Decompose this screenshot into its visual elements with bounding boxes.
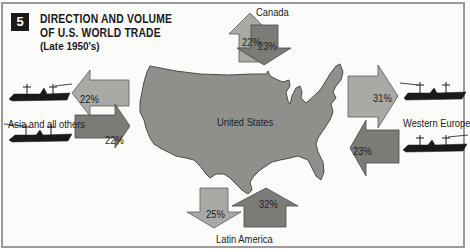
canada-label: Canada: [256, 6, 289, 18]
united-states-label: United States: [217, 116, 273, 128]
ship-icon-europe-top: [400, 82, 466, 100]
asia-label: Asia and all others: [8, 118, 85, 130]
europe-import-pct: 23%: [353, 145, 372, 157]
latin-america-export-pct: 25%: [206, 208, 225, 220]
asia-export-pct: 22%: [80, 93, 99, 105]
europe-export-pct: 31%: [373, 92, 392, 104]
canada-import-pct: 23%: [258, 40, 277, 52]
latin-america-import-pct: 32%: [259, 198, 278, 210]
ship-icon-asia-top: [9, 84, 72, 101]
ship-icon-europe-bottom: [403, 135, 468, 152]
western-europe-label: Western Europe: [403, 117, 470, 129]
latin-america-label: Latin America: [216, 233, 273, 245]
asia-import-pct: 22%: [105, 134, 124, 146]
us-map-shape: [140, 64, 343, 194]
